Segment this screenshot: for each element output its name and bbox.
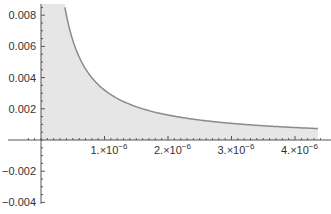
x-tick-label: 1.×10−6 — [91, 142, 129, 156]
x-tick-label: 3.×10−6 — [218, 142, 256, 156]
y-tick-label: 0.008 — [8, 9, 36, 21]
y-axis-ticks: 0.0080.0060.0040.002−0.002−0.004 — [2, 7, 45, 208]
y-tick-label: −0.004 — [2, 196, 36, 208]
y-tick-label: −0.002 — [2, 165, 36, 177]
x-tick-label: 4.×10−6 — [281, 142, 319, 156]
x-tick-label: 2.×10−6 — [154, 142, 192, 156]
y-tick-label: 0.004 — [8, 72, 36, 84]
area-fill — [41, 4, 318, 140]
y-tick-label: 0.006 — [8, 40, 36, 52]
function-plot: 0.0080.0060.0040.002−0.002−0.004 1.×10−6… — [0, 0, 331, 214]
y-tick-label: 0.002 — [8, 103, 36, 115]
